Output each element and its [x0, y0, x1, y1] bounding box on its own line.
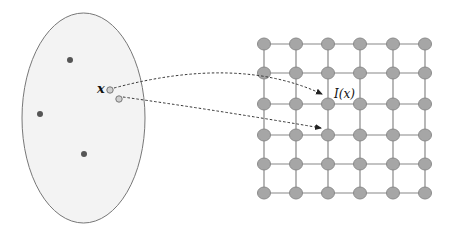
lattice-grid-lines [264, 44, 425, 193]
lattice-node [258, 158, 271, 170]
lattice-node [258, 129, 271, 141]
lattice-node [419, 158, 432, 170]
data-point [81, 151, 87, 157]
lattice-node [258, 187, 271, 199]
lattice-node [354, 129, 367, 141]
query-point [116, 96, 122, 102]
lattice-node [258, 67, 271, 79]
data-point [37, 111, 43, 117]
lattice-node [290, 158, 303, 170]
x-label: x [96, 81, 105, 96]
lattice-node [354, 67, 367, 79]
lattice-node [290, 67, 303, 79]
lattice-node [322, 129, 335, 141]
lattice-node [322, 67, 335, 79]
lattice-node [387, 67, 400, 79]
lattice-node [419, 187, 432, 199]
query-point [107, 87, 113, 93]
lattice-node [354, 98, 367, 110]
lattice-node [387, 158, 400, 170]
lattice-node [322, 187, 335, 199]
image-label: I(x) [333, 87, 355, 101]
lattice-node [258, 98, 271, 110]
lattice-node [419, 67, 432, 79]
lattice-node [387, 98, 400, 110]
lattice-node [419, 98, 432, 110]
lattice-node [387, 38, 400, 50]
lattice-node [419, 38, 432, 50]
lattice-node [354, 38, 367, 50]
lattice-node [258, 38, 271, 50]
lattice-node [419, 129, 432, 141]
lattice-node [322, 38, 335, 50]
lattice-node [290, 98, 303, 110]
lattice-node [290, 187, 303, 199]
diagram-canvas: x I(x) [0, 0, 451, 232]
lattice-node [322, 158, 335, 170]
lattice-node [387, 129, 400, 141]
lattice-node [322, 98, 335, 110]
input-space-ellipse [22, 13, 145, 223]
lattice-node [387, 187, 400, 199]
lattice-node [354, 158, 367, 170]
lattice-node [290, 38, 303, 50]
lattice-nodes [258, 38, 432, 199]
lattice-node [290, 129, 303, 141]
data-point [67, 57, 73, 63]
lattice-node [354, 187, 367, 199]
